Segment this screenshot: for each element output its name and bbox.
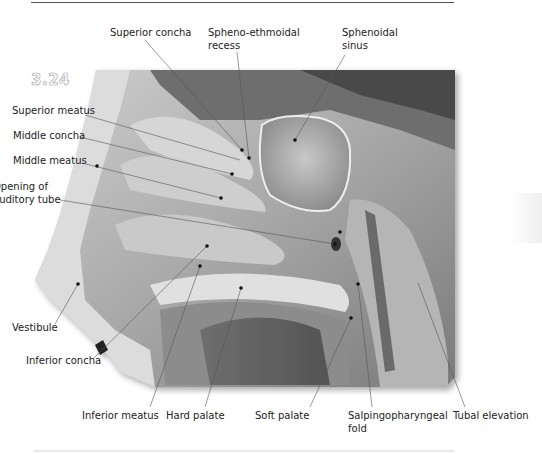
label-line: sinus: [342, 39, 398, 52]
label-salpingopharyngeal-fold: Salpingopharyngeal fold: [348, 409, 448, 435]
label-line: Salpingopharyngeal: [348, 409, 448, 422]
label-inferior-meatus: Inferior meatus: [82, 409, 159, 422]
dot-hard-palate: [239, 286, 243, 290]
photo-region: [35, 70, 455, 387]
label-inferior-concha: Inferior concha: [26, 354, 101, 367]
anatomical-photo: [0, 0, 542, 454]
label-line: Sphenoidal: [342, 26, 398, 39]
dot-opening-of-auditory-tube: [333, 242, 337, 246]
dot-spheno-ethmoidal-recess: [247, 156, 251, 160]
label-line: Opening of: [0, 180, 61, 193]
dot-nasal-wall: [95, 164, 99, 168]
label-line: Spheno-ethmoidal: [208, 26, 300, 39]
label-soft-palate: Soft palate: [255, 409, 309, 422]
dot-middle-concha: [230, 172, 234, 176]
label-line: auditory tube: [0, 193, 61, 206]
label-hard-palate: Hard palate: [166, 409, 225, 422]
dot-soft-palate: [349, 316, 353, 320]
page-side-tab: [510, 193, 542, 243]
label-middle-concha: Middle concha: [13, 129, 85, 142]
label-spheno-ethmoidal-recess: Spheno-ethmoidal recess: [208, 26, 300, 52]
label-line: fold: [348, 422, 448, 435]
figure-number: 3.24: [31, 71, 70, 89]
label-tubal-elevation: Tubal elevation: [453, 409, 529, 422]
label-middle-meatus: Middle meatus: [13, 154, 87, 167]
dot-tubal-region: [338, 230, 342, 234]
label-sphenoidal-sinus: Sphenoidal sinus: [342, 26, 398, 52]
dot-inferior-meatus: [198, 264, 202, 268]
dot-salpingopharyngeal-fold: [356, 282, 360, 286]
label-opening-of-auditory-tube: Opening of auditory tube: [0, 180, 61, 206]
label-superior-concha: Superior concha: [110, 26, 191, 39]
dot-middle-meatus: [219, 196, 223, 200]
dot-superior-concha: [240, 148, 244, 152]
dot-vestibule: [76, 282, 80, 286]
bottom-rule: [34, 450, 454, 452]
dot-inferior-concha: [205, 244, 209, 248]
label-superior-meatus: Superior meatus: [12, 104, 95, 117]
label-line: recess: [208, 39, 300, 52]
label-vestibule: Vestibule: [12, 321, 58, 334]
dot-sphenoidal-sinus: [293, 138, 297, 142]
